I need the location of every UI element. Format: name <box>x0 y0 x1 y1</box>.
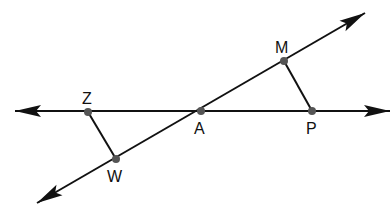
diagonal-line-arrow-start-icon <box>37 185 63 203</box>
point-W <box>112 155 120 163</box>
label-P: P <box>306 121 317 137</box>
diagonal-line-arrow-end-icon <box>339 13 365 31</box>
point-P <box>308 107 316 115</box>
segment-MP <box>284 61 312 111</box>
point-M <box>280 57 288 65</box>
diagram-canvas <box>0 0 392 214</box>
geometry-diagram: Z A P M W <box>0 0 392 214</box>
point-A <box>197 107 205 115</box>
label-M: M <box>275 40 288 56</box>
label-Z: Z <box>82 91 92 107</box>
label-W: W <box>107 169 122 185</box>
point-Z <box>84 108 92 116</box>
label-A: A <box>194 121 205 137</box>
segment-ZW <box>88 112 116 159</box>
